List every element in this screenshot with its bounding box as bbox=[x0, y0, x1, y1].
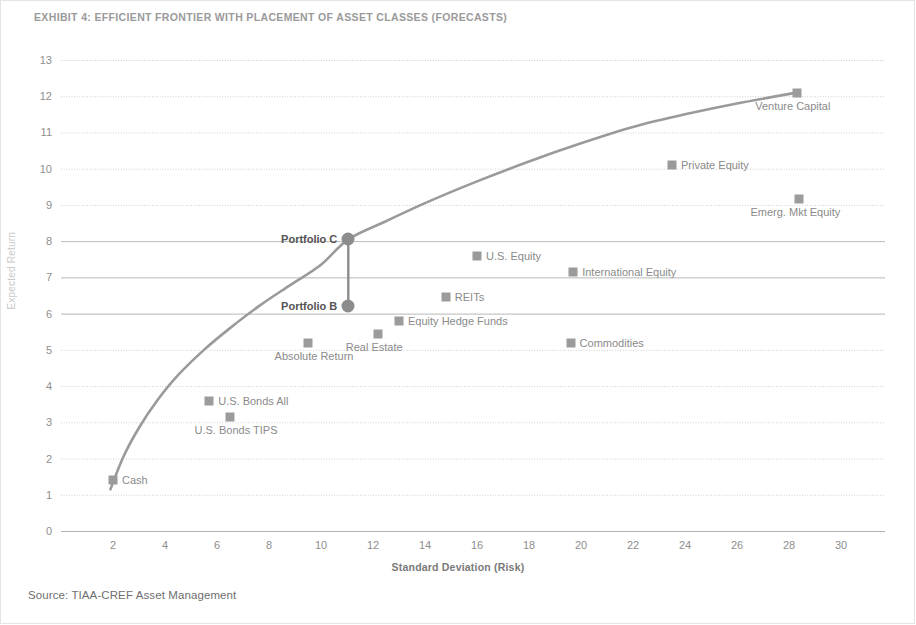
y-tick-label-13: 13 bbox=[26, 54, 52, 66]
data-point-label-u-s-bonds-all: U.S. Bonds All bbox=[218, 395, 288, 407]
data-point-label-equity-hedge-funds: Equity Hedge Funds bbox=[408, 315, 508, 327]
x-tick-label-4: 4 bbox=[145, 539, 185, 551]
data-point-marker-equity-hedge-funds[interactable] bbox=[395, 316, 404, 325]
chart-title: EXHIBIT 4: EFFICIENT FRONTIER WITH PLACE… bbox=[34, 13, 734, 28]
y-tick-label-0: 0 bbox=[26, 525, 52, 537]
data-point-label-absolute-return: Absolute Return bbox=[275, 350, 354, 362]
data-point-label-u-s-equity: U.S. Equity bbox=[486, 250, 541, 262]
data-point-label-u-s-bonds-tips: U.S. Bonds TIPS bbox=[195, 424, 278, 436]
data-point-label-reits: REITs bbox=[455, 291, 484, 303]
data-point-label-emerg-mkt-equity: Emerg. Mkt Equity bbox=[750, 206, 840, 218]
data-point-marker-u-s-bonds-tips[interactable] bbox=[226, 412, 235, 421]
data-point-label-international-equity: International Equity bbox=[582, 266, 676, 278]
x-tick-label-22: 22 bbox=[613, 539, 653, 551]
portfolio-label-portfolio-c: Portfolio C bbox=[281, 233, 337, 245]
x-axis-title: Standard Deviation (Risk) bbox=[0, 561, 916, 573]
y-tick-label-1: 1 bbox=[26, 489, 52, 501]
y-tick-label-3: 3 bbox=[26, 416, 52, 428]
y-tick-label-2: 2 bbox=[26, 453, 52, 465]
y-tick-label-5: 5 bbox=[26, 344, 52, 356]
data-point-marker-real-estate[interactable] bbox=[374, 329, 383, 338]
data-point-marker-private-equity[interactable] bbox=[668, 161, 677, 170]
chart-page: EXHIBIT 4: EFFICIENT FRONTIER WITH PLACE… bbox=[0, 0, 916, 625]
x-tick-label-10: 10 bbox=[301, 539, 341, 551]
data-point-marker-u-s-bonds-all[interactable] bbox=[205, 396, 214, 405]
data-point-marker-international-equity[interactable] bbox=[569, 267, 578, 276]
data-point-marker-absolute-return[interactable] bbox=[304, 338, 313, 347]
data-point-label-venture-capital: Venture Capital bbox=[755, 100, 830, 112]
x-tick-label-12: 12 bbox=[353, 539, 393, 551]
data-point-label-cash: Cash bbox=[122, 474, 148, 486]
x-tick-label-16: 16 bbox=[457, 539, 497, 551]
x-tick-label-6: 6 bbox=[197, 539, 237, 551]
y-tick-label-4: 4 bbox=[26, 380, 52, 392]
data-point-label-private-equity: Private Equity bbox=[681, 159, 749, 171]
portfolio-marker-portfolio-b[interactable] bbox=[342, 300, 355, 313]
plot-area: CashU.S. Bonds TIPSU.S. Bonds AllAbsolut… bbox=[61, 60, 887, 531]
x-tick-label-8: 8 bbox=[249, 539, 289, 551]
data-point-marker-cash[interactable] bbox=[109, 476, 118, 485]
x-tick-label-14: 14 bbox=[405, 539, 445, 551]
y-tick-label-12: 12 bbox=[26, 90, 52, 102]
x-tick-label-28: 28 bbox=[769, 539, 809, 551]
y-tick-label-11: 11 bbox=[26, 126, 52, 138]
data-point-label-real-estate: Real Estate bbox=[346, 341, 403, 353]
data-point-label-commodities: Commodities bbox=[580, 337, 644, 349]
x-tick-label-20: 20 bbox=[561, 539, 601, 551]
data-point-marker-venture-capital[interactable] bbox=[792, 88, 801, 97]
x-tick-label-30: 30 bbox=[821, 539, 861, 551]
y-tick-label-10: 10 bbox=[26, 163, 52, 175]
portfolio-marker-portfolio-c[interactable] bbox=[342, 233, 355, 246]
x-tick-label-18: 18 bbox=[509, 539, 549, 551]
source-note: Source: TIAA-CREF Asset Management bbox=[28, 589, 236, 601]
x-tick-label-2: 2 bbox=[93, 539, 133, 551]
data-point-marker-emerg-mkt-equity[interactable] bbox=[795, 195, 804, 204]
x-tick-label-26: 26 bbox=[717, 539, 757, 551]
y-axis-title: Expected Return bbox=[6, 232, 17, 310]
y-tick-label-7: 7 bbox=[26, 271, 52, 283]
y-tick-label-6: 6 bbox=[26, 308, 52, 320]
portfolio-label-portfolio-b: Portfolio B bbox=[281, 300, 337, 312]
x-tick-label-24: 24 bbox=[665, 539, 705, 551]
data-point-marker-commodities[interactable] bbox=[566, 338, 575, 347]
data-point-marker-u-s-equity[interactable] bbox=[473, 251, 482, 260]
y-tick-label-8: 8 bbox=[26, 235, 52, 247]
y-tick-label-9: 9 bbox=[26, 199, 52, 211]
data-point-marker-reits[interactable] bbox=[441, 293, 450, 302]
